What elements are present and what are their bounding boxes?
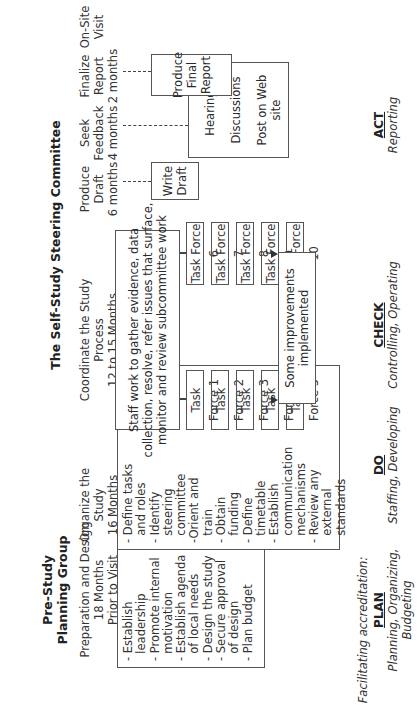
- steering-committee-title: The Self-Study Steering Committee: [48, 35, 63, 455]
- task-force-8: Task Force 8: [236, 222, 254, 285]
- phase-do-name: DO: [372, 395, 386, 535]
- phase-act-desc: Reporting: [386, 65, 400, 185]
- coordinate-staff-work-box: Staff work to gather evidence, data coll…: [115, 230, 180, 430]
- stage-produce-draft: Produce Draft 6 months: [78, 159, 120, 219]
- dashed-connector: [123, 125, 188, 126]
- phase-act-name: ACT: [372, 65, 386, 185]
- bidirectional-arrow: [180, 399, 186, 401]
- final-report-box: Produce Final Report: [151, 54, 232, 96]
- phase-do: DO Staffing, Developing: [372, 395, 400, 535]
- task-force-6: Task Force 6: [186, 222, 204, 285]
- stage-organize: Organize the Study 16 Months: [78, 445, 120, 565]
- task-force-7: Task Force 7: [211, 222, 229, 285]
- dashed-connector: [123, 71, 151, 72]
- bidirectional-arrow: [180, 253, 186, 255]
- phase-do-desc: Staffing, Developing: [386, 395, 400, 535]
- phase-plan-desc: Planning, Organizing, Budgeting: [386, 545, 414, 675]
- stage-seek-feedback: Seek Feedback 4 months: [78, 101, 120, 165]
- accreditation-process-diagram: Pre-Study Planning Group The Self-Study …: [0, 0, 417, 705]
- stage-coordinate: Coordinate the Study Process 12 to 15 Mo…: [78, 265, 120, 415]
- phase-plan-name: PLAN: [372, 545, 386, 675]
- pre-study-group-title: Pre-Study Planning Group: [40, 515, 70, 665]
- task-forces-right-group: Task Force 6 Task Force 7 Task Force 8 T…: [186, 222, 278, 285]
- stage-on-site-visit: On-Site Visit: [78, 1, 106, 53]
- task-force-1: Task Force 1: [186, 370, 204, 430]
- phase-check-desc: Controlling, Operating: [386, 245, 400, 405]
- phase-plan: PLAN Planning, Organizing, Budgeting: [372, 545, 414, 675]
- phase-act: ACT Reporting: [372, 65, 400, 185]
- arrow-down-icon: [271, 396, 278, 404]
- stage-finalize-report: Finalize Report 2 months: [78, 45, 120, 107]
- improvements-box: Some improvements implemented: [278, 252, 316, 404]
- write-draft-box: Write Draft: [151, 162, 199, 200]
- phase-check-name: CHECK: [372, 245, 386, 405]
- facilitating-accreditation-label: Facilitating accreditation:: [356, 555, 370, 705]
- task-force-2: Task Force 2: [211, 370, 229, 430]
- feedback-post-web: Post on Web site: [255, 63, 283, 157]
- task-forces-left-group: Task Force 1 Task Force 2 Task Force 3 T…: [186, 370, 278, 430]
- task-force-3: Task Force 3: [236, 370, 254, 430]
- phase-check: CHECK Controlling, Operating: [372, 245, 400, 405]
- arrow-down-icon: [271, 250, 278, 258]
- dashed-connector: [123, 181, 151, 182]
